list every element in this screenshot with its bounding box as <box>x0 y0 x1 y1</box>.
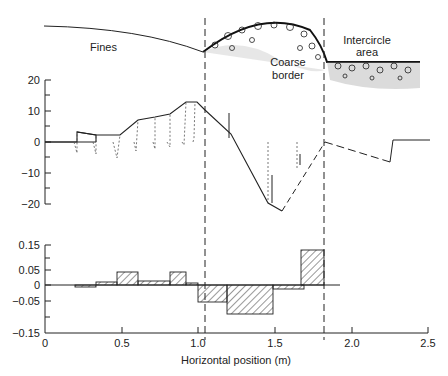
svg-text:0.5: 0.5 <box>114 337 129 349</box>
fines-label: Fines <box>90 41 117 53</box>
x-axis-label: Horizontal position (m) <box>181 354 291 366</box>
coarse-fill <box>203 45 325 71</box>
svg-text:−0.15: −0.15 <box>12 327 40 339</box>
svg-text:1.5: 1.5 <box>267 337 282 349</box>
coarse-label-1: Coarse <box>270 56 305 68</box>
histogram-bars <box>75 250 324 314</box>
svg-text:0: 0 <box>34 136 40 148</box>
intercircle-label-1: Intercircle <box>343 34 391 46</box>
svg-text:−10: −10 <box>21 167 40 179</box>
svg-text:20: 20 <box>28 74 40 86</box>
coarse-label-2: border <box>272 69 304 81</box>
svg-text:1.0: 1.0 <box>190 337 205 349</box>
svg-text:0.05: 0.05 <box>19 264 40 276</box>
svg-text:2.0: 2.0 <box>344 337 359 349</box>
histogram-plot: 0.15 0.05 0 −0.05 −0.15 0 0.5 1.0 1.5 2.… <box>12 239 435 366</box>
terrain-diagram: Fines Coarse border Intercircle area <box>44 22 420 89</box>
svg-text:10: 10 <box>28 105 40 117</box>
svg-text:0.15: 0.15 <box>19 239 40 251</box>
figure: Fines Coarse border Intercircle area 20 … <box>0 0 448 376</box>
svg-text:2.5: 2.5 <box>420 337 435 349</box>
svg-text:−20: −20 <box>21 198 40 210</box>
svg-text:0: 0 <box>42 337 48 349</box>
intercircle-label-2: area <box>356 46 379 58</box>
fines-surface <box>44 26 203 52</box>
profile-plot: 20 10 0 −10 −20 <box>21 74 430 211</box>
svg-text:0: 0 <box>34 279 40 291</box>
svg-text:−0.05: −0.05 <box>12 295 40 307</box>
